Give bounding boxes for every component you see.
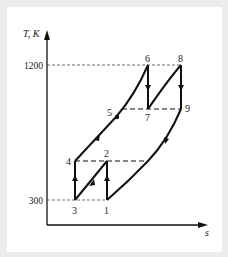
arrow-diagonal-icon — [94, 134, 100, 141]
arrow-up-icon — [104, 175, 110, 181]
arrow-up-icon — [72, 175, 78, 181]
process-3-2 — [75, 161, 107, 200]
cycle-paths — [75, 65, 181, 200]
label-point-7: 7 — [145, 112, 150, 123]
y-axis-arrow-icon — [44, 30, 50, 40]
label-point-9: 9 — [185, 103, 190, 114]
x-axis-label: s — [205, 227, 209, 238]
guide-lines — [47, 65, 181, 200]
process-9-1 — [107, 109, 181, 200]
label-point-8: 8 — [178, 53, 183, 64]
ts-diagram: T, K s 1200 300 — [0, 0, 228, 257]
process-dashes — [75, 109, 181, 161]
y-tick-300: 300 — [29, 196, 44, 206]
label-point-1: 1 — [104, 205, 109, 216]
y-axis-label: T, K — [23, 28, 41, 39]
y-tick-1200: 1200 — [24, 61, 43, 71]
arrow-down-icon — [178, 85, 184, 91]
label-point-3: 3 — [72, 205, 77, 216]
label-point-6: 6 — [145, 53, 150, 64]
arrow-down-icon — [145, 85, 151, 91]
state-point-5-dot — [115, 115, 119, 119]
label-point-5: 5 — [107, 107, 112, 118]
arrow-diagonal-icon — [164, 137, 169, 144]
label-point-4: 4 — [66, 156, 71, 167]
label-point-2: 2 — [104, 148, 109, 159]
axes — [44, 30, 208, 228]
process-7-8 — [148, 65, 181, 109]
